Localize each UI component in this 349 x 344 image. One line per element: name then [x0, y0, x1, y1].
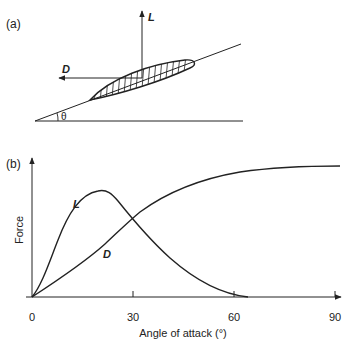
angle-arc-icon — [57, 113, 58, 121]
x-tick-60: 60 — [228, 311, 240, 323]
x-tick-30: 30 — [127, 311, 139, 323]
figure: (a) θ — [0, 0, 349, 344]
panel-b: (b) 0 30 60 90 Angle of attack (°) Force… — [6, 157, 341, 339]
lift-curve-label: L — [73, 198, 80, 210]
x-tick-0: 0 — [29, 311, 35, 323]
drag-curve-label: D — [103, 248, 111, 260]
y-axis-title: Force — [13, 216, 25, 244]
panel-a-label: (a) — [6, 17, 21, 31]
lift-curve — [32, 191, 248, 297]
panel-b-label: (b) — [6, 157, 21, 171]
x-tick-90: 90 — [329, 311, 341, 323]
x-tick-labels: 0 30 60 90 — [29, 311, 341, 323]
panel-a: (a) θ — [6, 11, 243, 122]
lift-label: L — [148, 11, 155, 23]
chord-line — [35, 44, 241, 121]
drag-label: D — [62, 63, 70, 75]
x-axis-title: Angle of attack (°) — [139, 327, 227, 339]
drag-curve — [32, 166, 340, 297]
angle-theta-label: θ — [61, 111, 67, 122]
